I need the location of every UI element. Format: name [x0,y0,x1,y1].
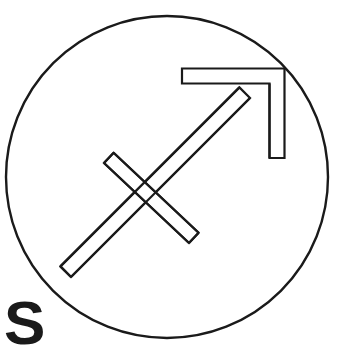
sagittarius-figure [0,0,340,356]
caption-letter-s: S [4,292,45,354]
figure-canvas: S [0,0,340,356]
